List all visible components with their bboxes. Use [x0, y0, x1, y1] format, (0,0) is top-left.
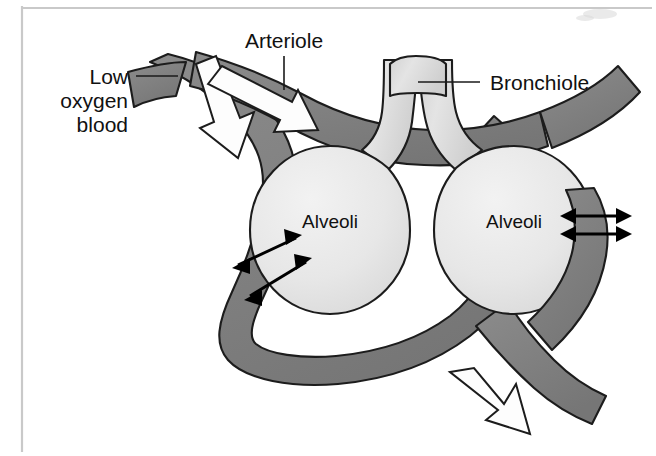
bronchiole-stem [390, 56, 446, 96]
flow-arrow-outflow-down [450, 368, 530, 434]
label-alveoli-left: Alveoli [302, 211, 358, 232]
label-low-oxygen-line2: oxygen [60, 89, 128, 112]
label-alveoli-right: Alveoli [486, 211, 542, 232]
scan-smudge [576, 9, 617, 21]
label-arteriole: Arteriole [245, 29, 323, 52]
label-bronchiole: Bronchiole [490, 71, 589, 94]
figure-container: Low oxygen blood Arteriole Bronchiole Al… [0, 0, 656, 456]
label-low-oxygen-line1: Low [89, 65, 128, 88]
label-low-oxygen-line3: blood [77, 113, 128, 136]
diagram-canvas: Low oxygen blood Arteriole Bronchiole Al… [0, 0, 656, 456]
vessel-inflow-stub [128, 62, 186, 107]
